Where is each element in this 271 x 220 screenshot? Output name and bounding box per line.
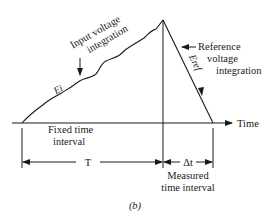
measured-interval-label-2: time interval [161, 182, 214, 193]
fixed-interval-label-2: interval [53, 136, 85, 147]
reference-integration-label-1: Reference [198, 41, 241, 52]
time-axis-label: Time [237, 118, 259, 129]
measured-interval-label-1: Measured [167, 170, 209, 181]
input-voltage-symbol: Ei [51, 82, 65, 97]
figure-caption: (b) [129, 200, 142, 212]
reference-integration-ramp [163, 20, 213, 123]
fixed-interval-symbol: T [85, 157, 92, 168]
reference-voltage-symbol: Eref [186, 52, 204, 74]
dual-slope-diagram: Time Input voltage integration Ei Refere… [0, 0, 271, 220]
reference-integration-label-2: voltage [207, 53, 238, 64]
measured-interval-symbol: Δt [183, 157, 193, 168]
reference-integration-label-3: integration [216, 65, 262, 76]
fixed-interval-label-1: Fixed time [48, 124, 94, 135]
